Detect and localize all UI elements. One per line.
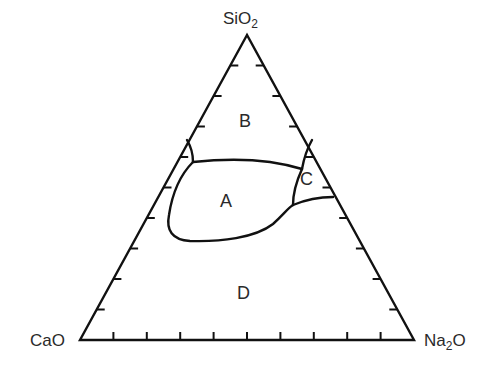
boundary-c-d [293,197,333,205]
vertex-label-sio2: SiO2 [223,10,258,27]
boundary-a-b [193,160,302,169]
region-label-d: D [237,284,250,302]
vertex-label-na2o: Na2O [424,332,466,349]
region-label-c: C [300,170,313,188]
region-label-b: B [239,112,251,130]
region-label-a: A [220,192,232,210]
boundary-b-left-arc [187,140,193,162]
vertex-label-cao: CaO [30,332,65,349]
ternary-diagram [0,0,483,391]
